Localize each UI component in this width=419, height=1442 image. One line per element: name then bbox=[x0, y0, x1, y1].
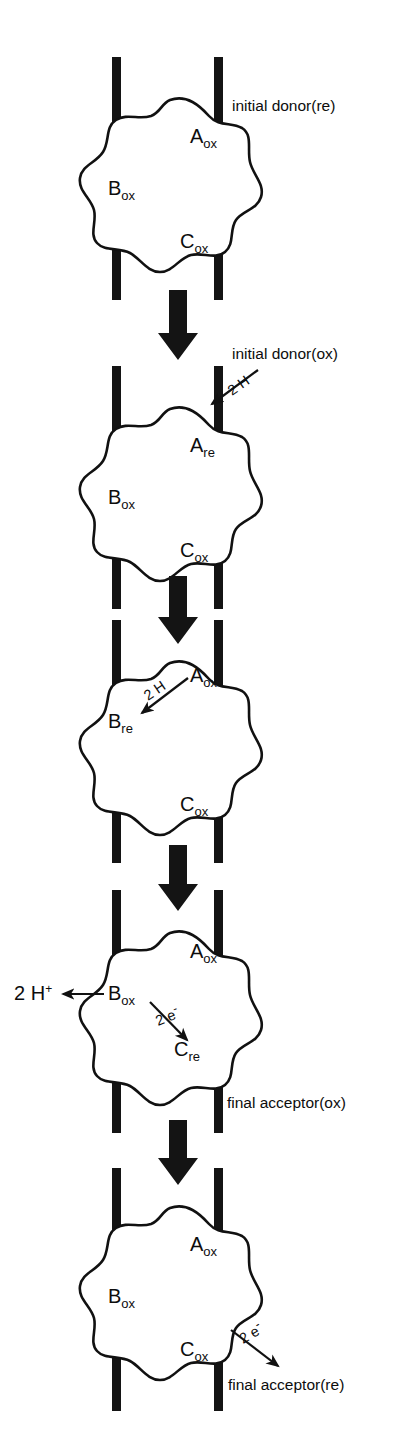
diagram-canvas: Aox Box Cox initial donor(re) Are Box Co… bbox=[0, 0, 419, 1442]
panel-1: Aox Box Cox initial donor(re) bbox=[80, 57, 336, 360]
caption-initial-donor-ox: initial donor(ox) bbox=[232, 345, 338, 362]
caption-final-acceptor-ox: final acceptor(ox) bbox=[227, 1094, 346, 1111]
caption-final-acceptor-re: final acceptor(re) bbox=[228, 1376, 344, 1393]
panel-2: Are Box Cox initial donor(ox) 2 H bbox=[80, 345, 338, 644]
panel-3: Aox Bre Cox 2 H bbox=[80, 620, 262, 911]
caption-initial-donor-re: initial donor(re) bbox=[232, 97, 335, 114]
step-arrow bbox=[158, 290, 198, 360]
complex-outline bbox=[80, 661, 262, 835]
panel-5: Aox Box Cox 2 e- final acceptor(re) bbox=[80, 1168, 345, 1411]
step-arrow bbox=[158, 1120, 198, 1185]
panel-4: Aox Box Cre 2 H+ 2 e- final acceptor(ox) bbox=[14, 890, 346, 1185]
step-arrow bbox=[158, 845, 198, 911]
step-arrow bbox=[158, 576, 198, 644]
flux-label-two-h-plus: 2 H+ bbox=[14, 982, 52, 1004]
transport-sequence-figure: Aox Box Cox initial donor(re) Are Box Co… bbox=[0, 0, 419, 1442]
